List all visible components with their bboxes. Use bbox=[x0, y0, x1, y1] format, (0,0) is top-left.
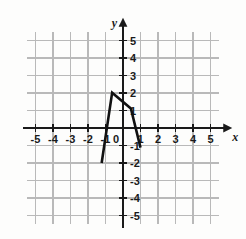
x-axis-label: x bbox=[231, 130, 238, 144]
axes bbox=[23, 18, 233, 229]
y-axis-label: y bbox=[110, 16, 118, 30]
x-tick-label: -4 bbox=[48, 133, 59, 145]
y-tick-label: 5 bbox=[130, 35, 136, 47]
x-tick-label: 5 bbox=[207, 133, 213, 145]
x-tick-label: 4 bbox=[190, 133, 197, 145]
y-tick-label: -5 bbox=[130, 210, 140, 222]
graph-figure: -5-4-3-2-112345 54321-1-2-3-4-5 0 x y bbox=[0, 0, 246, 239]
y-tick-label: 3 bbox=[130, 70, 136, 82]
x-tick-label: -2 bbox=[83, 133, 93, 145]
x-tick-label: -5 bbox=[31, 133, 41, 145]
y-tick-label: 4 bbox=[130, 52, 137, 64]
y-tick-label: -3 bbox=[130, 175, 140, 187]
x-tick-label: -3 bbox=[66, 133, 76, 145]
x-tick-label: 3 bbox=[172, 133, 178, 145]
y-axis-arrowhead bbox=[119, 18, 128, 27]
x-tick-label: 2 bbox=[155, 133, 161, 145]
y-tick-label: -4 bbox=[130, 192, 141, 204]
coordinate-plane: -5-4-3-2-112345 54321-1-2-3-4-5 0 x y bbox=[0, 0, 246, 239]
y-tick-label: 2 bbox=[130, 87, 136, 99]
y-tick-label: -2 bbox=[130, 157, 140, 169]
x-axis-arrowhead bbox=[223, 124, 232, 133]
origin-label: 0 bbox=[113, 133, 119, 145]
